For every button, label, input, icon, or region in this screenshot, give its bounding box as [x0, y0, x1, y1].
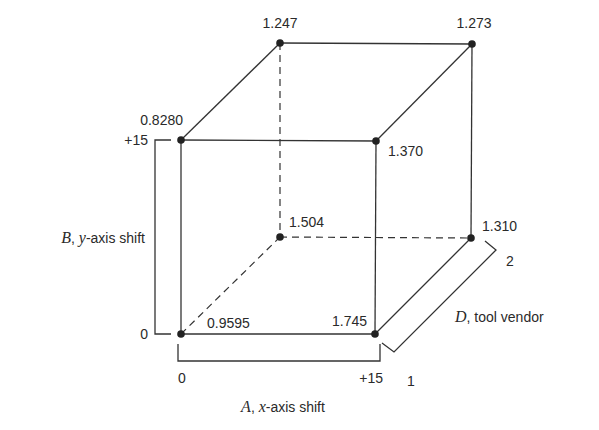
label-back-bottom-left: 1.504: [289, 214, 324, 230]
label-back-top-right: 1.273: [456, 15, 491, 31]
cube-diagram: 1.247 1.273 0.8280 1.370 1.504 1.310 0.9…: [0, 0, 599, 430]
label-back-top-left: 1.247: [262, 15, 297, 31]
b-low-label: 0: [140, 326, 148, 342]
label-front-bottom-left: 0.9595: [207, 315, 250, 331]
vertex-back-bottom-left: [276, 233, 284, 241]
axis-b-bracket: +15 0 B, y-axis shift: [61, 132, 171, 342]
b-high-label: +15: [124, 132, 148, 148]
visible-edges: [181, 43, 472, 334]
label-front-top-right: 1.370: [388, 143, 423, 159]
vertex-back-top-left: [276, 39, 284, 47]
b-axis-title: B, y-axis shift: [61, 229, 145, 247]
vertex-front-top-left: [177, 136, 185, 144]
a-high-label: +15: [359, 370, 383, 386]
vertex-back-bottom-right: [467, 234, 475, 242]
a-axis-title: A, x-axis shift: [240, 398, 325, 415]
edge-top-left-depth: [181, 43, 280, 140]
edge-back-top: [280, 43, 472, 44]
edge-front-top: [181, 140, 376, 141]
a-low-label: 0: [178, 370, 186, 386]
vertex-labels: 1.247 1.273 0.8280 1.370 1.504 1.310 0.9…: [140, 15, 517, 331]
d-low-label: 1: [407, 373, 415, 389]
edge-top-right-depth: [376, 44, 472, 141]
d-bracket-line: [382, 241, 496, 352]
axis-d-bracket: 1 2 D, tool vendor: [382, 241, 544, 389]
edge-back-right-vertical: [471, 44, 472, 238]
vertex-front-bottom-right: [371, 330, 379, 338]
label-front-bottom-right: 1.745: [332, 313, 367, 329]
vertices: [177, 39, 476, 338]
a-bracket-line: [178, 344, 380, 361]
vertex-front-top-right: [372, 137, 380, 145]
b-bracket-line: [155, 140, 171, 334]
axis-a-bracket: 0 +15 A, x-axis shift: [178, 344, 383, 415]
vertex-front-bottom-left: [177, 330, 185, 338]
hidden-edges: [181, 43, 471, 334]
label-back-bottom-right: 1.310: [482, 218, 517, 234]
vertex-back-top-right: [468, 40, 476, 48]
label-front-top-left: 0.8280: [140, 112, 183, 128]
edge-front-right: [375, 141, 376, 334]
d-high-label: 2: [506, 253, 514, 269]
d-axis-title: D, tool vendor: [454, 308, 544, 325]
